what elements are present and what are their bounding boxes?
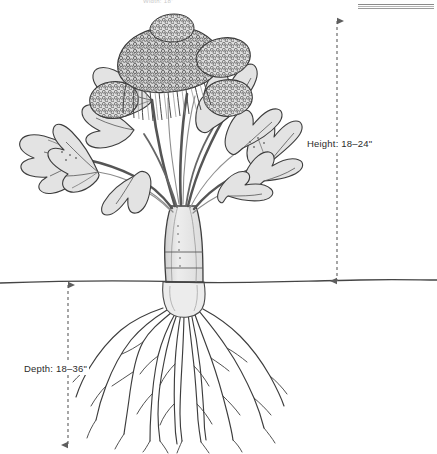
broccoli-plant-illustration <box>0 0 437 454</box>
root-crown <box>163 282 206 317</box>
height-dimension-label: Height: 18–24" <box>305 137 374 150</box>
soil-line <box>0 280 437 283</box>
figure-canvas: Width: 18" <box>0 0 437 454</box>
fibrous-root-system <box>73 308 287 453</box>
main-stem <box>165 206 203 282</box>
broccoli-floret-head <box>90 14 253 121</box>
depth-dimension-label: Depth: 18–36" <box>22 362 89 375</box>
